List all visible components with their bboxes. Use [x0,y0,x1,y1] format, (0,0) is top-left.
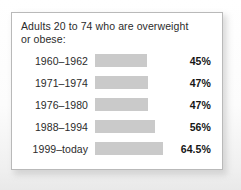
row-value-label: 47% [169,99,213,111]
row-value-label: 64.5% [169,143,213,155]
row-period-label: 1999–today [21,143,95,155]
bar [95,76,148,89]
row-value-label: 45% [169,55,213,67]
bar-row: 1999–today64.5% [21,138,213,160]
bar-track [95,72,169,94]
row-period-label: 1971–1974 [21,77,95,89]
bar [95,120,155,133]
bar [95,54,147,67]
bar-rows: 1960–196245%1971–197447%1976–198047%1988… [21,50,213,160]
bar-row: 1976–198047% [21,94,213,116]
bar-track [95,138,169,160]
bar [95,98,148,111]
chart-figure: Adults 20 to 74 who are overweight or ob… [0,0,241,190]
chart-card: Adults 20 to 74 who are overweight or ob… [11,12,223,170]
row-period-label: 1960–1962 [21,55,95,67]
row-period-label: 1976–1980 [21,99,95,111]
chart-title: Adults 20 to 74 who are overweight or ob… [21,20,213,45]
bar-row: 1960–196245% [21,50,213,72]
row-value-label: 56% [169,121,213,133]
bar-row: 1971–197447% [21,72,213,94]
bar-track [95,116,169,138]
bar-track [95,50,169,72]
bar-track [95,94,169,116]
row-period-label: 1988–1994 [21,121,95,133]
bar [95,142,163,155]
bar-row: 1988–199456% [21,116,213,138]
row-value-label: 47% [169,77,213,89]
